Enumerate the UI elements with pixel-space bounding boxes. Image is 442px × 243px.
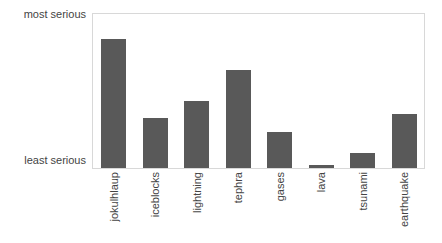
bar[interactable] <box>226 70 251 168</box>
bar[interactable] <box>101 39 126 168</box>
bar-slot <box>176 13 218 168</box>
x-axis-tick-label: tephra <box>233 172 244 203</box>
x-axis-tick-label: jokulhlaup <box>108 172 119 222</box>
x-axis-label-slot: gases <box>259 170 301 243</box>
plot-area <box>93 13 425 168</box>
y-axis-bottom-label: least serious <box>24 155 86 166</box>
bar[interactable] <box>184 101 209 168</box>
x-axis-tick-label: lightning <box>191 172 202 213</box>
x-axis-tick-label: tsunami <box>357 172 368 211</box>
y-axis-top-label: most serious <box>24 9 86 20</box>
bar-chart: most serious least serious jokulhlaupice… <box>0 0 442 243</box>
bar-slot <box>259 13 301 168</box>
x-axis-labels: jokulhlaupiceblockslightningtephragasesl… <box>93 170 425 243</box>
bar[interactable] <box>267 132 292 168</box>
bar[interactable] <box>143 118 168 168</box>
bar[interactable] <box>350 153 375 169</box>
x-axis-tick-label: iceblocks <box>150 172 161 217</box>
x-axis-label-slot: jokulhlaup <box>93 170 135 243</box>
bar-slot <box>342 13 384 168</box>
x-axis-label-slot: tephra <box>218 170 260 243</box>
bar[interactable] <box>309 165 334 168</box>
bar-slot <box>301 13 343 168</box>
x-axis-label-slot: lava <box>301 170 343 243</box>
bar-slot <box>218 13 260 168</box>
bar-slot <box>93 13 135 168</box>
x-axis-label-slot: tsunami <box>342 170 384 243</box>
bar-slot <box>384 13 426 168</box>
x-axis-label-slot: earthquake <box>384 170 426 243</box>
bar[interactable] <box>392 114 417 168</box>
x-axis-label-slot: iceblocks <box>135 170 177 243</box>
x-axis-tick-label: earthquake <box>399 172 410 227</box>
x-axis-tick-label: gases <box>274 172 285 201</box>
x-axis-label-slot: lightning <box>176 170 218 243</box>
bar-slot <box>135 13 177 168</box>
x-axis-tick-label: lava <box>316 172 327 192</box>
